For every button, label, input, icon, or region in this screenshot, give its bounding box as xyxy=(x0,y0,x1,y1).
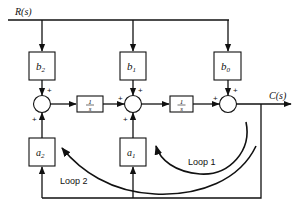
sign: + xyxy=(233,86,238,95)
sign: + xyxy=(32,115,37,124)
svg-text:s: s xyxy=(89,105,92,113)
integrator-block-1: 1 s xyxy=(77,96,103,113)
summing-junction-3 xyxy=(220,96,237,113)
svg-text:s: s xyxy=(180,105,183,113)
loop-1-indicator: Loop 1 xyxy=(156,122,247,174)
input-signal: R(s) xyxy=(8,6,229,20)
output-label: C(s) xyxy=(269,90,287,102)
gain-block-a1: a1 xyxy=(120,138,146,166)
sign: + xyxy=(123,115,128,124)
gain-block-b0: b0 xyxy=(214,52,241,80)
input-label: R(s) xyxy=(14,6,32,18)
summing-junction-1 xyxy=(34,96,51,113)
gain-block-a2: a2 xyxy=(29,138,55,166)
gain-block-b1: b1 xyxy=(120,52,146,80)
loop-2-label: Loop 2 xyxy=(60,176,88,186)
block-diagram: R(s) b2 b1 b0 + + + + + + + 1 s 1 xyxy=(0,0,296,211)
loop-2-indicator: Loop 2 xyxy=(60,146,256,194)
summing-junction-2 xyxy=(125,96,142,113)
sign: + xyxy=(47,86,52,95)
sign: + xyxy=(213,94,218,103)
output-signal: C(s) xyxy=(237,90,292,104)
loop-1-label: Loop 1 xyxy=(188,157,216,167)
sign: + xyxy=(118,94,123,103)
gain-block-b2: b2 xyxy=(29,52,55,80)
sign: + xyxy=(138,86,143,95)
integrator-block-2: 1 s xyxy=(170,96,193,113)
